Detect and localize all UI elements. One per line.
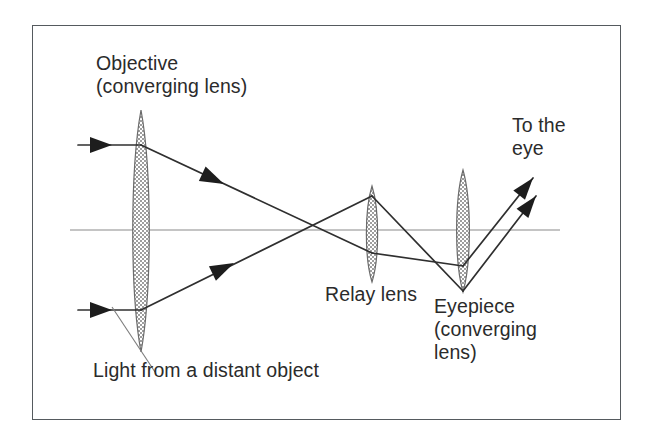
lens-eyepiece	[457, 170, 470, 292]
arrowhead-lower-incoming	[90, 302, 112, 318]
label-relay-lens: Relay lens	[325, 283, 417, 306]
arrowhead-upper-midray	[199, 167, 228, 192]
arrowhead-exit-upper	[513, 173, 539, 200]
arrowhead-upper-incoming	[90, 137, 112, 153]
ray-upper-objective-to-relay	[141, 145, 372, 253]
label-eyepiece: Eyepiece (converging lens)	[434, 295, 537, 364]
ray-upper-relay-to-eyepiece	[372, 253, 463, 266]
label-to-the-eye: To the eye	[512, 114, 566, 160]
label-light-source: Light from a distant object	[93, 359, 319, 382]
ray-lower-relay-to-eyepiece	[372, 196, 463, 291]
lens-objective	[133, 110, 150, 352]
figure-stage: Objective (converging lens) Relay lens E…	[0, 0, 646, 444]
arrowhead-lower-midray	[209, 256, 238, 281]
label-objective: Objective (converging lens)	[96, 52, 247, 98]
